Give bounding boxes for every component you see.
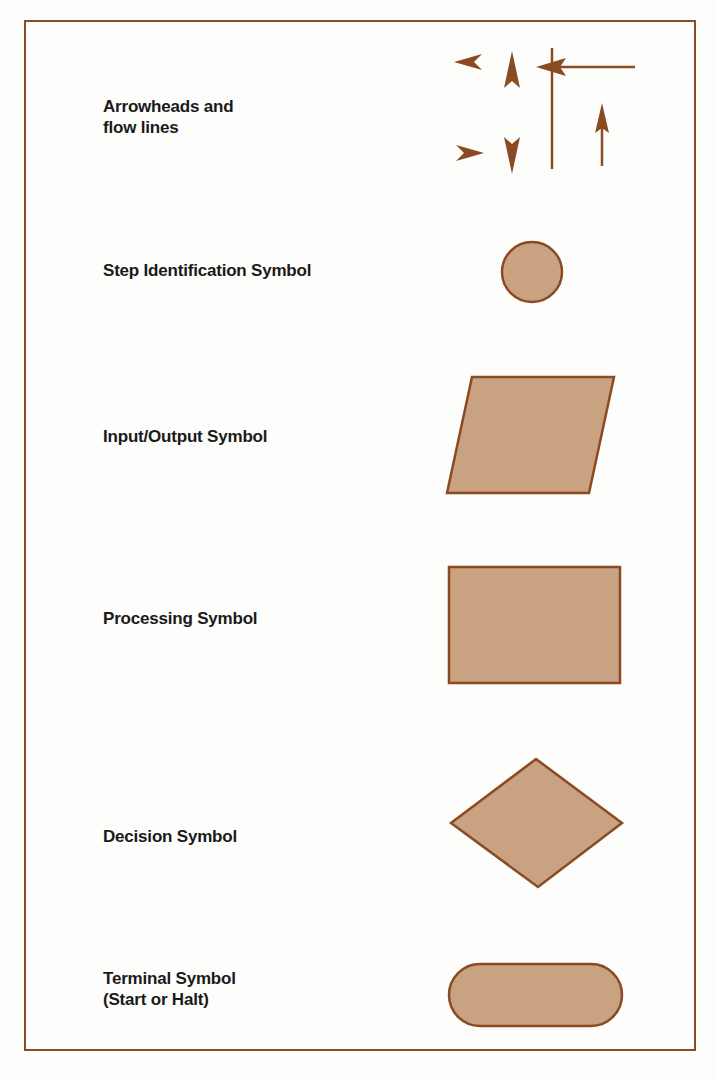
processing-rectangle-icon	[448, 566, 622, 686]
decision-diamond-icon	[450, 758, 624, 890]
label-decision: Decision Symbol	[103, 826, 237, 847]
input-output-parallelogram-icon	[446, 376, 616, 496]
arrowheads-and-flow-lines-icon	[440, 40, 660, 180]
label-input-output: Input/Output Symbol	[103, 426, 267, 447]
arrowhead-left-icon	[454, 54, 482, 70]
label-line: (Start or Halt)	[103, 989, 236, 1010]
label-arrowheads: Arrowheads and flow lines	[103, 96, 233, 138]
label-line: Terminal Symbol	[103, 968, 236, 989]
arrowhead-up-icon	[504, 51, 520, 88]
label-line: Decision Symbol	[103, 826, 237, 847]
label-step-identification: Step Identification Symbol	[103, 260, 311, 281]
terminal-rounded-rectangle-icon	[448, 963, 624, 1029]
label-line: Input/Output Symbol	[103, 426, 267, 447]
label-line: Arrowheads and	[103, 96, 233, 117]
step-identification-circle-icon	[500, 240, 564, 304]
label-line: Step Identification Symbol	[103, 260, 311, 281]
arrowhead-right-icon	[456, 145, 484, 161]
label-terminal: Terminal Symbol (Start or Halt)	[103, 968, 236, 1010]
label-line: Processing Symbol	[103, 608, 257, 629]
label-line: flow lines	[103, 117, 233, 138]
arrowhead-down-icon	[504, 137, 520, 174]
label-processing: Processing Symbol	[103, 608, 257, 629]
